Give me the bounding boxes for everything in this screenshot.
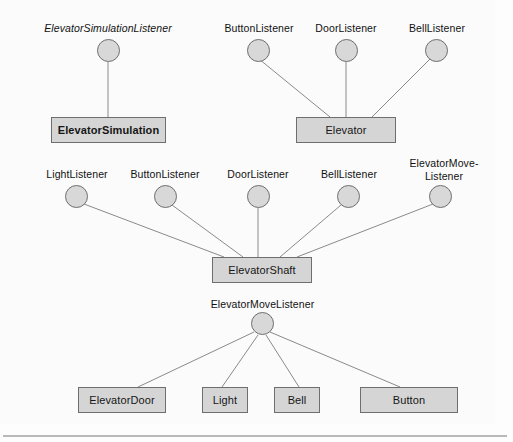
interface-label-doorlistener-mid: DoorListener [212, 168, 304, 181]
bottom-divider-rule [3, 435, 507, 437]
interface-label-elevatorsimulationlistener: ElevatorSimulationListener [18, 22, 198, 35]
interface-circle-belllistener-mid[interactable] [337, 185, 360, 208]
interface-label-buttonlistener-mid: ButtonListener [110, 168, 220, 181]
interface-label-belllistener-mid: BellListener [305, 168, 393, 181]
interface-circle-doorlistener-top[interactable] [335, 39, 358, 62]
interface-circle-buttonlistener-mid[interactable] [154, 185, 177, 208]
class-box-bell[interactable]: Bell [274, 387, 320, 413]
interface-circle-elevatorsimulationlistener[interactable] [97, 39, 120, 62]
interface-circle-elevatormovelistener-mid[interactable] [429, 185, 452, 208]
interface-label-elevatormovelistener-mid: ElevatorMove- Listener [396, 157, 492, 182]
class-box-elevatordoor[interactable]: ElevatorDoor [78, 387, 166, 413]
diagram-canvas: ElevatorSimulationListener ButtonListene… [0, 0, 513, 442]
interface-circle-belllistener-top[interactable] [425, 39, 448, 62]
class-box-elevator[interactable]: Elevator [296, 117, 396, 143]
interface-circle-buttonlistener-top[interactable] [247, 39, 270, 62]
class-box-button[interactable]: Button [360, 387, 458, 413]
diagram-panel-background [0, 0, 495, 424]
class-box-light[interactable]: Light [202, 387, 248, 413]
class-box-elevatorsimulation[interactable]: ElevatorSimulation [51, 117, 166, 143]
interface-circle-lightlistener-mid[interactable] [65, 185, 88, 208]
interface-label-belllistener-top: BellListener [393, 22, 481, 35]
interface-circle-doorlistener-mid[interactable] [247, 185, 270, 208]
interface-circle-elevatormovelistener-bottom[interactable] [251, 312, 274, 335]
interface-label-doorlistener-top: DoorListener [300, 22, 392, 35]
interface-label-buttonlistener-top: ButtonListener [204, 22, 314, 35]
interface-label-elevatormovelistener-bottom: ElevatorMoveListener [194, 298, 331, 311]
class-box-elevatorshaft[interactable]: ElevatorShaft [212, 257, 312, 283]
